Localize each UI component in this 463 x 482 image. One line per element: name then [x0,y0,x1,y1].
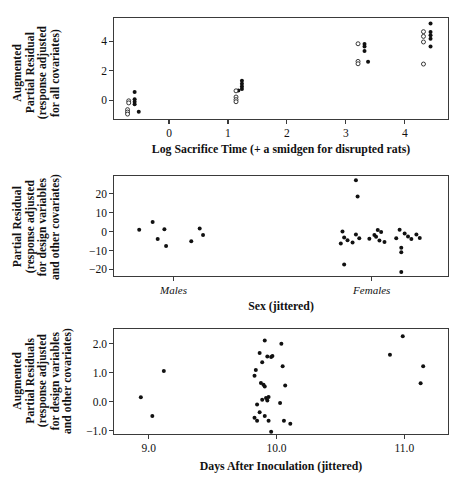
data-point [342,236,346,240]
data-point [401,334,405,338]
data-point [150,414,154,418]
data-point [162,227,166,231]
y-tick-mark [109,193,113,194]
y-axis-label-2: AugmentedPartial Residuals(response adju… [12,322,74,440]
x-tick-label: 4 [402,127,408,139]
data-point [126,112,130,116]
data-point [421,34,425,38]
y-tick-label: 2 [79,65,107,77]
x-tick-label: Males [160,284,187,296]
data-point [127,101,131,105]
y-axis-label-0: AugmentedPartial Residual(response adjus… [12,14,61,132]
data-point [429,21,433,25]
y-tick-label: 20 [79,188,107,200]
data-point [278,401,282,405]
data-point [399,270,403,274]
y-tick-mark [109,372,113,373]
y-axis-label-line: (response adjusted [25,180,37,273]
data-point [260,398,264,402]
data-point [421,30,425,34]
plot-area-1 [113,175,449,277]
data-point [398,228,402,232]
data-point [377,239,381,243]
data-points-0 [114,18,450,121]
data-point [421,364,425,368]
y-axis-label-line: for design variables [37,178,49,276]
x-axis-title-1: Sex (jittered) [248,299,314,314]
data-point [346,238,350,242]
data-point [255,402,259,406]
data-point [288,422,292,426]
panel-sex-jittered: Partial Residual(response adjustedfor de… [0,158,463,323]
data-points-2 [114,329,450,436]
data-point [267,395,271,399]
plot-area-0 [113,17,449,120]
x-tick-mark [286,120,287,124]
x-axis-title-2: Days After Inoculation (jittered) [200,459,362,474]
x-tick-label: 10.0 [266,442,286,454]
y-tick-mark [109,100,113,101]
data-point [421,40,425,44]
x-tick-mark [404,435,405,439]
data-point [419,381,423,385]
data-point [403,231,407,235]
x-tick-mark [276,435,277,439]
x-axis-title-0: Log Sacrifice Time (+ a smidgen for disr… [152,142,410,157]
data-point [269,430,273,434]
data-point [382,240,386,244]
y-tick-mark [109,212,113,213]
y-tick-label: 1.0 [79,367,107,379]
panel-log-sacrifice-time: AugmentedPartial Residual(response adjus… [0,0,463,160]
y-tick-mark [109,250,113,251]
data-point [234,100,238,104]
y-tick-mark [109,430,113,431]
data-point [133,90,137,94]
data-point [406,234,410,238]
data-point [399,246,403,250]
y-tick-mark [109,343,113,344]
y-axis-label-line: Partial Residual [25,32,37,113]
y-tick-label: 0 [79,94,107,106]
y-tick-label: −10 [79,245,107,257]
data-point [388,353,392,357]
data-point [283,383,287,387]
y-axis-label-line: Augmented [12,352,24,410]
x-tick-label: 11.0 [394,442,414,454]
data-point [356,194,360,198]
y-tick-label: 4 [79,35,107,47]
y-tick-label: 0 [79,226,107,238]
data-points-1 [114,176,450,278]
x-tick-label: 1 [225,127,231,139]
data-point [198,227,202,231]
y-tick-mark [109,231,113,232]
data-point [234,89,238,93]
data-point [421,62,425,66]
y-axis-label-line: and other covariates) [62,328,74,434]
data-point [342,262,346,266]
x-tick-mark [173,277,174,281]
data-point [409,237,413,241]
y-axis-label-1: Partial Residual(response adjustedfor de… [12,166,61,288]
data-point [133,102,137,106]
data-point [254,368,258,372]
x-tick-mark [168,120,169,124]
x-tick-label: 9.0 [142,442,156,454]
data-point [263,339,267,343]
x-tick-mark [404,120,405,124]
data-point [151,220,155,224]
x-tick-mark [345,120,346,124]
y-tick-label: −20 [79,263,107,275]
data-point [164,244,168,248]
data-point [162,369,166,373]
x-tick-mark [227,120,228,124]
y-tick-label: 10 [79,207,107,219]
x-tick-mark [148,435,149,439]
data-point [139,395,143,399]
x-tick-label: 3 [343,127,349,139]
data-point [379,230,383,234]
data-point [351,240,355,244]
y-axis-label-line: for design variables [50,332,62,430]
data-point [137,228,141,232]
data-point [367,237,371,241]
y-axis-label-line: Partial Residuals [25,338,37,424]
